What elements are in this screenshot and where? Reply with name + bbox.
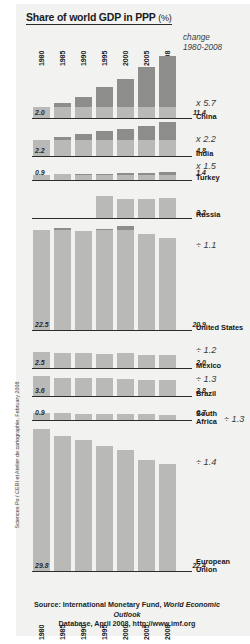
bar-growth-cap [75,97,92,107]
country-label-line: India [196,150,213,158]
bar-china-2000 [116,79,135,118]
bars-united_states [32,226,178,330]
bar-united_states-2005 [137,234,156,330]
bar-united_states-1990 [74,231,93,330]
country-label-european_union: EuropeanUnion [196,558,230,575]
change-value-china: x 5.7 [196,98,216,108]
bar-growth-cap [96,229,113,231]
change-value-european_union: ÷ 1.4 [196,457,216,467]
credit-note: Sciences Po / CERI et Atelier de cartogr… [14,380,20,530]
baseline-mexico [32,368,192,369]
bar-growth-cap [96,87,113,107]
change-value-mexico: ÷ 1.2 [196,345,216,355]
country-label-russia: Russia [196,211,220,219]
bar-european_union-2005 [137,460,156,572]
country-label-line: Union [196,566,230,574]
bar-turkey-2000 [116,173,135,180]
country-label-line: China [196,113,217,121]
bar-brazil-1985 [53,378,72,396]
bar-growth-cap [54,103,71,107]
change-header-line1: change [183,33,222,43]
value-start-turkey: 0.9 [35,169,45,176]
bar-mexico-1990 [74,353,93,368]
value-start-mexico: 2.5 [35,359,45,366]
bar-brazil-2000 [116,379,135,396]
bar-growth-cap [159,56,176,107]
bar-growth-cap [117,129,134,140]
bar-european_union-2000 [116,450,135,571]
bar-india-1995 [95,131,114,156]
value-start-china: 2.0 [35,109,45,116]
country-label-india: India [196,150,213,158]
bar-growth-cap [138,126,155,141]
country-label-south_africa: SouthAfrica [196,410,217,427]
bar-growth-cap [159,122,176,140]
change-value-brazil: ÷ 1.3 [196,374,216,384]
bar-brazil-1995 [95,378,114,396]
bar-mexico-2000 [116,353,135,368]
bar-growth-cap [75,134,92,140]
country-label-line: Russia [196,211,220,219]
bar-growth-cap [117,79,134,107]
bar-growth-cap [117,173,134,175]
value-start-india: 2.2 [35,147,45,154]
bar-china-1995 [95,87,114,118]
bar-european_union-2008 [158,464,177,571]
change-value-south_africa: ÷ 1.3 [224,414,244,424]
bar-growth-cap [75,174,92,175]
country-label-line: Turkey [196,174,220,182]
country-label-mexico: Mexico [196,362,221,370]
bar-united_states-1985 [53,228,72,330]
value-start-brazil: 3.6 [35,387,45,394]
baseline-russia [32,218,192,219]
country-label-united_states: United States [196,324,243,332]
country-label-china: China [196,113,217,121]
source-note: Source: International Monetary Fund, Wor… [24,600,230,629]
bar-russia-1995 [95,196,114,218]
bar-european_union-1990 [74,440,93,571]
bar-growth-cap [96,174,113,175]
country-label-line: Mexico [196,362,221,370]
bar-growth-cap [96,131,113,140]
page-title: Share of world GDP in PPP (%) [26,11,172,25]
change-value-united_states: ÷ 1.1 [196,240,216,250]
source-line2: Database, April 2008, http://www.imf.org [59,619,196,628]
baseline-european_union [32,571,192,572]
bar-european_union-1995 [95,446,114,571]
bar-european_union-1985 [53,436,72,571]
bar-united_states-2000 [116,226,135,330]
country-label-brazil: Brazil [196,390,216,398]
source-line1-a: Source: International Monetary Fund, [34,600,163,609]
bar-united_states-1995 [95,229,114,330]
bar-growth-cap [117,226,134,230]
value-start-south_africa: 0.9 [35,409,45,416]
bar-russia-2000 [116,199,135,218]
bar-growth-cap [54,228,71,230]
bar-brazil-1990 [74,378,93,396]
baseline-china [32,118,192,119]
change-value-india: x 2.2 [196,134,216,144]
change-value-turkey: x 1.5 [196,161,216,171]
bar-growth-cap [138,67,155,107]
bar-india-2000 [116,129,135,156]
bar-united_states-2008 [158,238,177,330]
bar-china-1990 [74,97,93,118]
baseline-india [32,156,192,157]
country-label-line: United States [196,324,243,332]
bar-mexico-1995 [95,354,114,368]
change-header: change 1980-2008 [183,33,222,53]
country-label-line: Brazil [196,390,216,398]
page-title-unit: (%) [158,13,171,23]
bar-south_africa-1985 [53,413,72,420]
baseline-united_states [32,330,192,331]
infographic-poster: Share of world GDP in PPP (%) change 198… [0,0,250,644]
value-start-european_union: 29.8 [35,562,49,569]
bar-india-1990 [74,134,93,156]
bar-united_states-1980 [32,230,51,330]
change-header-line2: 1980-2008 [183,43,222,53]
bar-india-1985 [53,137,72,156]
baseline-brazil [32,396,192,397]
bar-mexico-1985 [53,353,72,368]
value-start-united_states: 22.5 [35,321,49,328]
baseline-south_africa [32,420,192,421]
